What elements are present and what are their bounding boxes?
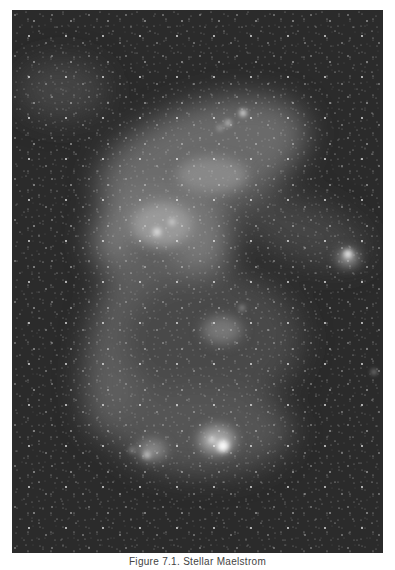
star-field-image (12, 10, 383, 553)
figure-caption: Figure 7.1. Stellar Maelstrom (0, 556, 395, 567)
astronomical-photo (12, 10, 383, 553)
